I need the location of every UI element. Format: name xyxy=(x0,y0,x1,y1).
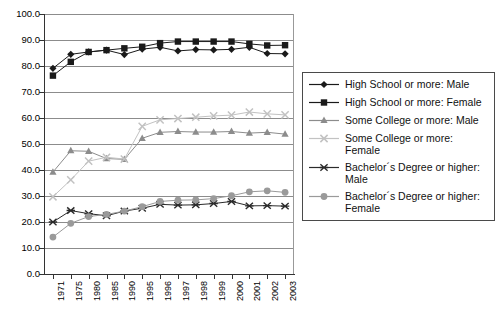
x-tick-label: 1990 xyxy=(128,281,137,301)
data-point-circle xyxy=(321,193,328,200)
chart-legend: High School or more: MaleHigh School or … xyxy=(302,72,495,221)
y-tick-label: 40.0 xyxy=(4,165,40,175)
data-point-circle xyxy=(282,189,289,196)
x-tick-mark xyxy=(107,274,108,279)
y-tick-mark xyxy=(39,274,44,275)
x-tick-mark xyxy=(267,274,268,279)
data-point-asterisk xyxy=(245,203,253,209)
x-tick-mark xyxy=(124,274,125,279)
data-point-square xyxy=(282,42,288,48)
data-point-cross xyxy=(85,158,92,165)
x-tick-label: 2000 xyxy=(236,281,245,301)
data-point-diamond xyxy=(264,50,271,57)
series-layer xyxy=(44,14,294,274)
series-3 xyxy=(49,108,288,200)
series-line xyxy=(53,112,285,197)
x-tick-mark xyxy=(196,274,197,279)
x-tick-label: 1998 xyxy=(200,281,209,301)
data-point-square xyxy=(85,49,91,55)
x-tick-label: 1985 xyxy=(111,281,120,301)
data-point-square xyxy=(157,40,163,46)
data-point-circle xyxy=(228,192,235,199)
data-point-diamond xyxy=(281,50,288,57)
series-4 xyxy=(49,198,290,225)
x-tick-label: 1996 xyxy=(164,281,173,301)
x-tick-mark xyxy=(89,274,90,279)
y-tick-mark xyxy=(39,248,44,249)
data-point-square xyxy=(210,38,216,44)
plot-wrapper: 100.090.080.070.060.050.040.030.020.010.… xyxy=(0,0,300,321)
legend-item[interactable]: High School or more: Male xyxy=(307,78,490,91)
x-tick-mark xyxy=(285,274,286,279)
data-point-circle xyxy=(175,197,182,204)
data-point-circle xyxy=(121,208,128,215)
x-tick-label: 1975 xyxy=(75,281,84,301)
legend-label: Bachelor´s Degree or higher: Female xyxy=(341,190,480,214)
data-point-square xyxy=(228,38,234,44)
x-tick-mark xyxy=(53,274,54,279)
y-tick-label: 50.0 xyxy=(4,139,40,149)
y-tick-label: 20.0 xyxy=(4,217,40,227)
y-tick-label: 10.0 xyxy=(4,243,40,253)
x-tick-mark xyxy=(178,274,179,279)
data-point-square xyxy=(246,41,252,47)
y-tick-label: 0.0 xyxy=(4,269,40,279)
legend-label: Some College or more: Male xyxy=(341,114,479,126)
y-tick-label: 80.0 xyxy=(4,61,40,71)
series-1 xyxy=(50,38,289,78)
legend-marker-asterisk-icon xyxy=(307,161,341,174)
x-tick-label: 1997 xyxy=(182,281,191,301)
data-point-diamond xyxy=(174,47,181,54)
data-point-square xyxy=(193,38,199,44)
data-point-square xyxy=(103,47,109,53)
x-tick-mark xyxy=(249,274,250,279)
legend-item[interactable]: Some College or more: Male xyxy=(307,114,490,127)
data-point-square xyxy=(139,44,145,50)
x-tick-label: 2003 xyxy=(289,281,298,301)
x-tick-label: 1980 xyxy=(93,281,102,301)
legend-item[interactable]: Bachelor´s Degree or higher: Male xyxy=(307,161,490,185)
data-point-square xyxy=(50,72,56,78)
y-tick-mark xyxy=(39,144,44,145)
data-point-triangle xyxy=(85,147,92,154)
x-tick-label: 1995 xyxy=(146,281,155,301)
y-tick-mark xyxy=(39,92,44,93)
legend-marker-triangle-icon xyxy=(307,114,341,127)
data-point-square xyxy=(68,59,74,65)
legend-marker-circle-icon xyxy=(307,190,341,203)
legend-item[interactable]: Some College or more: Female xyxy=(307,132,490,156)
y-tick-label: 90.0 xyxy=(4,35,40,45)
data-point-triangle xyxy=(228,128,235,134)
y-tick-mark xyxy=(39,40,44,41)
legend-item[interactable]: High School or more: Female xyxy=(307,96,490,109)
x-tick-mark xyxy=(71,274,72,279)
data-point-triangle xyxy=(210,128,217,135)
y-tick-mark xyxy=(39,222,44,223)
data-point-triangle xyxy=(264,128,271,135)
x-tick-label: 1999 xyxy=(218,281,227,301)
series-2 xyxy=(49,128,288,175)
data-point-triangle xyxy=(67,147,74,154)
data-point-circle xyxy=(246,188,253,195)
data-point-diamond xyxy=(228,46,235,53)
data-point-asterisk xyxy=(263,202,271,208)
legend-item[interactable]: Bachelor´s Degree or higher: Female xyxy=(307,190,490,214)
data-point-circle xyxy=(50,234,57,241)
data-point-asterisk xyxy=(67,207,75,213)
y-axis-labels: 100.090.080.070.060.050.040.030.020.010.… xyxy=(0,0,40,321)
y-tick-mark xyxy=(39,14,44,15)
data-point-diamond xyxy=(121,51,128,58)
data-point-triangle xyxy=(156,128,163,135)
legend-label: High School or more: Male xyxy=(341,78,469,90)
legend-label: Bachelor´s Degree or higher: Male xyxy=(341,161,480,185)
series-0 xyxy=(49,44,288,72)
legend-marker-cross-icon xyxy=(307,132,341,145)
y-tick-mark xyxy=(39,170,44,171)
y-tick-mark xyxy=(39,118,44,119)
data-point-asterisk xyxy=(227,198,235,204)
x-tick-label: 1971 xyxy=(57,281,66,301)
legend-marker-square-icon xyxy=(307,96,341,109)
y-tick-mark xyxy=(39,196,44,197)
data-point-circle xyxy=(103,211,110,218)
data-point-diamond xyxy=(320,81,327,88)
